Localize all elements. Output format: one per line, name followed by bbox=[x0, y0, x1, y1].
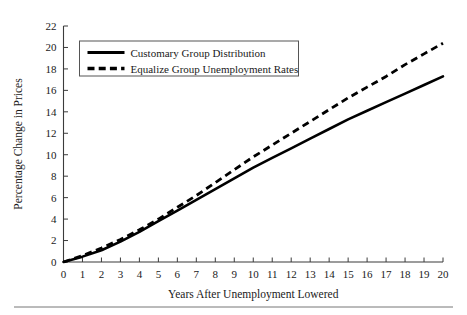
y-axis-title: Percentage Change in Prices bbox=[12, 78, 25, 210]
y-axis-tick-label: 0 bbox=[51, 256, 57, 268]
x-axis-tick-label: 12 bbox=[286, 268, 297, 280]
x-axis-tick-label: 7 bbox=[194, 268, 200, 280]
y-axis-tick-label: 14 bbox=[46, 106, 58, 118]
chart-legend: Customary Group DistributionEqualize Gro… bbox=[80, 41, 299, 76]
x-axis-tick-label: 0 bbox=[61, 268, 67, 280]
series-line-1 bbox=[64, 76, 444, 262]
y-axis-tick-label: 18 bbox=[46, 63, 58, 75]
y-axis-tick-label: 4 bbox=[51, 213, 57, 225]
y-axis-tick-label: 6 bbox=[51, 192, 57, 204]
x-axis-tick-label: 17 bbox=[381, 268, 393, 280]
x-axis-tick-label: 4 bbox=[137, 268, 143, 280]
y-axis-tick-label: 12 bbox=[46, 127, 57, 139]
x-axis-tick-label: 2 bbox=[99, 268, 105, 280]
x-axis-tick-label: 18 bbox=[400, 268, 412, 280]
x-axis-tick-label: 6 bbox=[175, 268, 181, 280]
x-axis-tick-label: 11 bbox=[267, 268, 278, 280]
x-axis-tick-label: 10 bbox=[248, 268, 260, 280]
x-axis-tick-label: 1 bbox=[80, 268, 86, 280]
y-axis-tick-label: 2 bbox=[51, 234, 57, 246]
y-axis-tick-label: 22 bbox=[46, 20, 57, 32]
x-axis-tick-label: 9 bbox=[232, 268, 238, 280]
line-chart: 0246810121416182022012345678910111213141… bbox=[0, 0, 467, 315]
x-axis-tick-label: 14 bbox=[324, 268, 336, 280]
x-axis-tick-label: 13 bbox=[305, 268, 317, 280]
legend-label-1: Customary Group Distribution bbox=[131, 47, 267, 59]
x-axis-tick-label: 19 bbox=[419, 268, 431, 280]
y-axis-tick-label: 8 bbox=[51, 170, 57, 182]
x-axis-tick-label: 15 bbox=[343, 268, 355, 280]
x-axis-title: Years After Unemployment Lowered bbox=[168, 288, 339, 301]
y-axis-tick-label: 20 bbox=[46, 41, 58, 53]
legend-label-2: Equalize Group Unemployment Rates bbox=[131, 63, 299, 75]
y-axis-tick-label: 16 bbox=[46, 84, 58, 96]
y-axis-tick-label: 10 bbox=[46, 149, 58, 161]
x-axis-tick-label: 5 bbox=[156, 268, 162, 280]
chart-figure: 0246810121416182022012345678910111213141… bbox=[0, 0, 467, 315]
x-axis-tick-label: 8 bbox=[213, 268, 219, 280]
x-axis-tick-label: 3 bbox=[118, 268, 124, 280]
x-axis-tick-label: 20 bbox=[438, 268, 450, 280]
x-axis-tick-label: 16 bbox=[362, 268, 374, 280]
